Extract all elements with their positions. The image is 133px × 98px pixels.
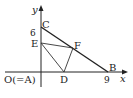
y-axis-arrow-icon [39,5,44,11]
y-tick-label: 6 [30,28,36,38]
x-tick-label: 9 [104,75,110,85]
x-axis-label: x [120,73,126,84]
origin-label: O(=A) [4,74,36,85]
segment-ED [41,43,64,72]
segment-DF [64,48,73,72]
point-label-E: E [31,38,38,49]
point-label-D: D [60,74,68,85]
geometry-diagram: y x 6 9 O(=A) C E F D B [0,0,133,98]
point-label-C: C [42,19,50,30]
point-label-B: B [109,62,116,73]
point-label-F: F [74,40,81,51]
y-axis-label: y [31,4,38,15]
